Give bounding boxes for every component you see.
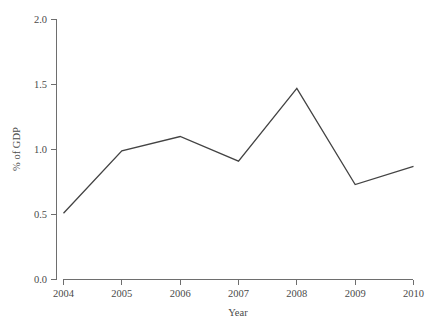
x-tick-label: 2005 <box>111 288 132 299</box>
x-tick-label: 2009 <box>345 288 366 299</box>
chart-figure: 0.0 0.5 1.0 1.5 2.0 2004 2005 2006 2007 … <box>0 0 438 327</box>
x-tick-label: 2006 <box>170 288 191 299</box>
y-tick-label: 0.5 <box>34 209 47 220</box>
y-tick-label: 1.5 <box>34 79 47 90</box>
x-axis-title: Year <box>228 307 248 318</box>
x-tick-label: 2007 <box>228 288 249 299</box>
y-tick-label: 2.0 <box>34 14 47 25</box>
y-tick-label: 0.0 <box>34 274 47 285</box>
x-tick-label: 2008 <box>286 288 307 299</box>
x-tick-label: 2004 <box>53 288 75 299</box>
chart-background <box>0 0 438 327</box>
y-axis-title: % of GDP <box>11 127 22 171</box>
x-tick-label: 2010 <box>403 288 424 299</box>
y-tick-label: 1.0 <box>34 144 47 155</box>
line-chart-canvas: 0.0 0.5 1.0 1.5 2.0 2004 2005 2006 2007 … <box>0 0 438 327</box>
